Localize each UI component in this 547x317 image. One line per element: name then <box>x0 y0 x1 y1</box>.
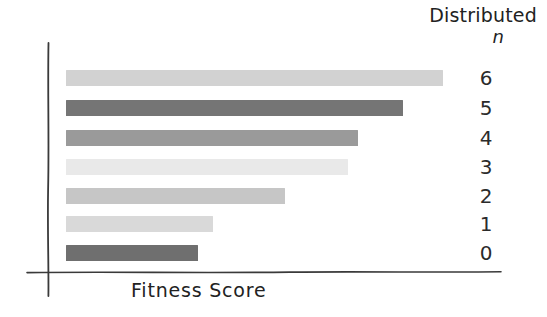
chart-page: 6 5 4 3 2 1 0 Distributed n Fitness S <box>0 0 547 317</box>
bar-4 <box>66 130 358 146</box>
bar-6 <box>66 70 443 86</box>
y-tick-label-0: 0 <box>466 245 506 261</box>
chart-title-variable: n <box>493 26 504 47</box>
y-tick-label-5: 5 <box>466 100 506 116</box>
y-tick-label-4: 4 <box>466 130 506 146</box>
y-tick-label-2: 2 <box>466 188 506 204</box>
plot-area: 6 5 4 3 2 1 0 <box>0 0 547 317</box>
y-tick-label-6: 6 <box>466 70 506 86</box>
y-tick-label-1: 1 <box>466 216 506 232</box>
x-axis-label: Fitness Score <box>131 279 266 301</box>
bar-5 <box>66 100 403 116</box>
bar-2 <box>66 188 285 204</box>
y-tick-label-3: 3 <box>466 159 506 175</box>
bar-0 <box>66 245 198 261</box>
chart-title: Distributed <box>429 4 537 26</box>
bar-1 <box>66 216 213 232</box>
bar-3 <box>66 159 348 175</box>
